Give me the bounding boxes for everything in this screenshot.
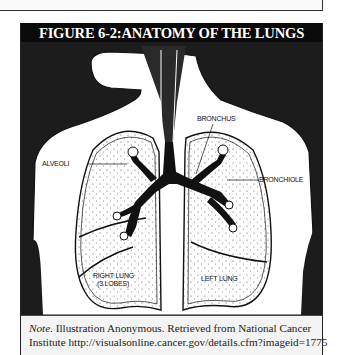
label-bronchus: BRONCHUS (197, 115, 235, 123)
figure-note: Note. Illustration Anonymous. Retrieved … (21, 315, 322, 355)
label-left-lung: LEFT LUNG (201, 275, 238, 283)
note-line-2: Institute http://visualsonline.cancer.go… (29, 335, 322, 349)
figure-title: FIGURE 6-2:ANATOMY OF THE LUNGS (21, 23, 322, 42)
note-prefix: Note. (29, 322, 53, 334)
previous-content-box (0, 0, 323, 11)
label-bronchiole: BRONCHIOLE (259, 176, 303, 184)
note-line-1: Illustration Anonymous. Retrieved from N… (53, 322, 311, 334)
figure-panel: FIGURE 6-2:ANATOMY OF THE LUNGS (20, 23, 323, 355)
label-right-lung: RIGHT LUNG (93, 272, 134, 280)
label-right-lung-lobes: (3 LOBES) (97, 280, 129, 288)
lung-illustration: BRONCHUS ALVEOLI BRONCHIOLE RIGHT LUNG (… (21, 42, 322, 315)
label-alveoli: ALVEOLI (42, 160, 69, 168)
